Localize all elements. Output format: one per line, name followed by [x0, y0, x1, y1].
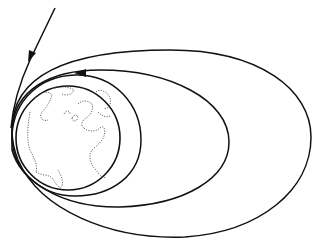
earth-globe: [16, 86, 120, 190]
orbit-diagram: [0, 0, 317, 249]
incoming-arrow-icon: [28, 50, 36, 62]
